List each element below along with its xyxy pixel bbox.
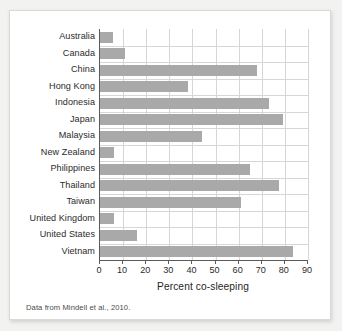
x-tick-label: 50 [203, 265, 227, 275]
category-label: Vietnam [9, 246, 95, 256]
bar [100, 81, 188, 92]
bar [100, 114, 283, 125]
x-tick-label: 30 [156, 265, 180, 275]
category-label: Malaysia [9, 130, 95, 140]
bar-row [100, 211, 308, 228]
category-axis-labels: AustraliaCanadaChinaHong KongIndonesiaJa… [10, 29, 95, 260]
x-tick-mark [238, 260, 239, 264]
x-gridline [308, 29, 309, 260]
category-label: Thailand [9, 180, 95, 190]
x-tick-label: 0 [87, 265, 111, 275]
x-tick-mark [99, 260, 100, 264]
bar-row [100, 128, 308, 145]
x-tick-mark [145, 260, 146, 264]
x-tick-mark [261, 260, 262, 264]
bar [100, 213, 114, 224]
category-label: Philippines [9, 163, 95, 173]
bar [100, 131, 202, 142]
bar [100, 197, 241, 208]
category-label: Australia [9, 31, 95, 41]
x-tick-label: 70 [249, 265, 273, 275]
bar [100, 65, 257, 76]
x-tick-label: 60 [226, 265, 250, 275]
bar-row [100, 112, 308, 129]
x-tick-label: 90 [295, 265, 319, 275]
bar [100, 98, 269, 109]
bar-row [100, 178, 308, 195]
bar-row [100, 79, 308, 96]
figure-caption: Data from Mindell et al., 2010. [26, 303, 130, 312]
x-tick-label: 80 [272, 265, 296, 275]
category-label: Canada [9, 48, 95, 58]
category-label: United States [9, 229, 95, 239]
category-label: Indonesia [9, 97, 95, 107]
bar-row [100, 46, 308, 63]
x-tick-mark [307, 260, 308, 264]
bar-chart: AustraliaCanadaChinaHong KongIndonesiaJa… [10, 11, 331, 320]
bar-row [100, 194, 308, 211]
bar [100, 230, 137, 241]
bar-row [100, 62, 308, 79]
bar [100, 164, 250, 175]
x-tick-mark [191, 260, 192, 264]
bar-row [100, 227, 308, 244]
category-label: New Zealand [9, 147, 95, 157]
x-tick-label: 20 [133, 265, 157, 275]
category-label: Hong Kong [9, 81, 95, 91]
bar-row [100, 145, 308, 162]
x-tick-label: 40 [179, 265, 203, 275]
x-tick-mark [122, 260, 123, 264]
bar-row [100, 95, 308, 112]
figure-card: AustraliaCanadaChinaHong KongIndonesiaJa… [9, 10, 331, 320]
bar [100, 48, 125, 59]
x-tick-label: 10 [110, 265, 134, 275]
x-tick-mark [215, 260, 216, 264]
bar-row [100, 29, 308, 46]
plot-area [99, 29, 308, 261]
bar-row [100, 161, 308, 178]
x-tick-mark [284, 260, 285, 264]
bar-row [100, 244, 308, 261]
category-label: United Kingdom [9, 213, 95, 223]
bar [100, 246, 293, 257]
bar [100, 32, 113, 43]
bar [100, 147, 114, 158]
bar [100, 180, 279, 191]
x-tick-mark [168, 260, 169, 264]
category-label: Japan [9, 114, 95, 124]
category-label: China [9, 64, 95, 74]
category-label: Taiwan [9, 196, 95, 206]
x-axis-title: Percent co-sleeping [99, 281, 307, 292]
